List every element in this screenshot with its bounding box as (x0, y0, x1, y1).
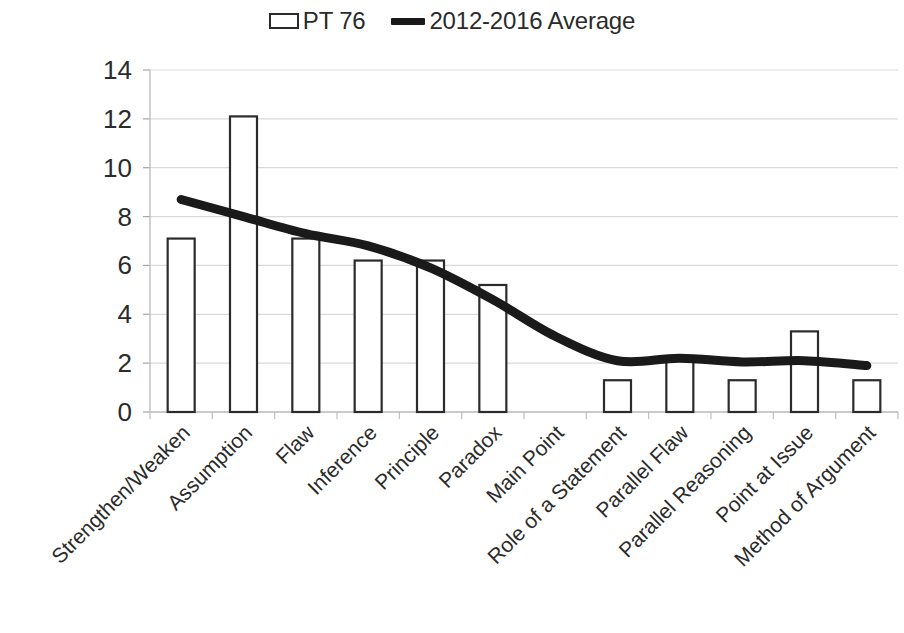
y-axis-tick-label: 12 (103, 104, 132, 134)
y-axis-line (143, 70, 150, 412)
chart-container: PT 76 2012-2016 Average 02468101214 Stre… (0, 0, 904, 633)
category-label: Inference (303, 421, 381, 499)
category-label: Flaw (271, 420, 319, 468)
bar (417, 261, 444, 412)
y-axis-tick-label: 2 (118, 348, 132, 378)
bar (168, 239, 195, 412)
bar (292, 239, 319, 412)
bar (853, 380, 880, 412)
y-axis-tick-label: 10 (103, 153, 132, 183)
y-axis-tick-label: 6 (118, 250, 132, 280)
y-axis-tick-labels: 02468101214 (103, 55, 132, 427)
y-axis-tick-label: 14 (103, 55, 132, 85)
plot-area: 02468101214 Strengthen/WeakenAssumptionF… (0, 0, 904, 633)
y-axis-tick-label: 4 (118, 299, 132, 329)
bar (791, 331, 818, 412)
y-axis-tick-label: 8 (118, 202, 132, 232)
bar (604, 380, 631, 412)
bar (230, 116, 257, 412)
chart-svg: 02468101214 Strengthen/WeakenAssumptionF… (0, 0, 904, 633)
line-series (181, 199, 867, 365)
x-axis-ticks (150, 412, 898, 419)
bar (666, 358, 693, 412)
bar (729, 380, 756, 412)
bar-series (168, 116, 881, 412)
average-line (181, 199, 867, 365)
y-axis-tick-label: 0 (118, 397, 132, 427)
category-label: Principle (370, 421, 443, 494)
x-axis-category-labels: Strengthen/WeakenAssumptionFlawInference… (47, 420, 880, 571)
bar (355, 261, 382, 412)
